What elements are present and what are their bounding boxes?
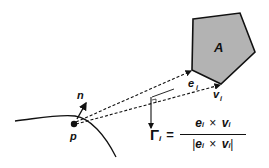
surface-curve <box>15 115 116 157</box>
formula-numerator: ei × vi <box>195 116 230 132</box>
polygon-a <box>192 13 255 84</box>
plane-line <box>152 89 174 97</box>
vertex-sub: i <box>220 95 223 102</box>
num-times: × <box>209 116 216 130</box>
den-bar-right: | <box>230 137 233 151</box>
den-times: × <box>209 137 216 151</box>
num-e-sub: i <box>202 121 204 128</box>
formula-lhs: Γ <box>150 126 159 143</box>
den-e-sub: i <box>202 142 204 149</box>
formula-fraction: ei × vi |ei × vi| <box>180 116 246 153</box>
formula: Γ i = ei × vi |ei × vi| <box>150 117 246 151</box>
edge-sub: i <box>196 84 199 91</box>
point-label: p <box>69 130 77 142</box>
formula-equals: = <box>166 127 174 142</box>
formula-lhs-sub: i <box>159 134 161 143</box>
dashed-line-e <box>76 71 191 122</box>
vertex-label: v <box>213 88 220 100</box>
edge-label: e <box>188 77 194 89</box>
formula-denominator: |ei × vi| <box>192 137 233 153</box>
fraction-bar <box>180 134 246 135</box>
num-v-sub: i <box>228 121 230 128</box>
polygon-label: A <box>213 40 223 55</box>
normal-label: n <box>77 89 84 101</box>
normal-arrow <box>77 103 86 119</box>
